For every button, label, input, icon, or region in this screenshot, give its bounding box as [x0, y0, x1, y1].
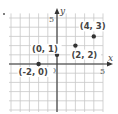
point-label: (-2, 0) — [19, 67, 48, 77]
point-label: (2, 2) — [71, 50, 97, 60]
y-tick-label-5: 5 — [49, 15, 54, 24]
data-point — [92, 34, 96, 38]
y-axis-label: y — [59, 6, 66, 16]
coordinate-plane: x y 5 5 0 (-2, 0)(0, 1)(2, 2)(4, 3) — [0, 0, 118, 114]
data-point — [73, 43, 77, 47]
x-tick-label-5: 5 — [100, 67, 105, 76]
points: (-2, 0)(0, 1)(2, 2)(4, 3) — [18, 21, 110, 77]
point-label: (0, 1) — [32, 44, 58, 54]
list-bullet — [3, 13, 5, 15]
x-axis-label: x — [108, 53, 113, 63]
data-point — [36, 62, 40, 66]
point-label: (4, 3) — [80, 21, 106, 31]
y-axis-arrow-icon — [55, 8, 60, 14]
